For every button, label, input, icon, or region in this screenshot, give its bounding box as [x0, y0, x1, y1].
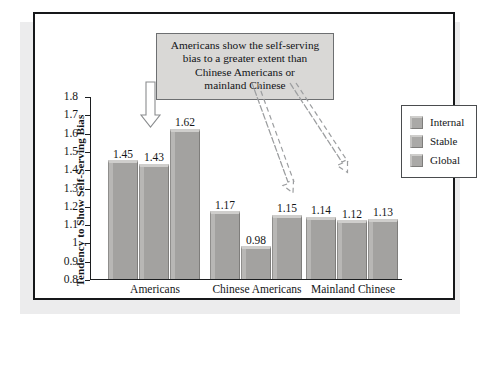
y-tick-0.8: 0.8: [85, 280, 90, 281]
x-axis-label-mainland-chinese: Mainland Chinese: [311, 284, 395, 296]
y-tick-label-1.6: 1.6: [64, 128, 78, 140]
y-tick-0.9: 0.9: [85, 262, 90, 263]
y-tick-1.3: 1.3: [85, 189, 90, 190]
bar-americans-internal[interactable]: 1.45: [108, 160, 138, 279]
bar-value-chinese-americans-global: 1.15: [277, 203, 297, 215]
y-tick-label-1.2: 1.2: [64, 201, 78, 213]
y-tick-1.1: 1.1: [85, 225, 90, 226]
y-tick-1.0: 1: [85, 243, 90, 244]
bar-group-chinese-americans: 1.17 0.98 1.15 Chinese Americans: [210, 96, 304, 279]
bar-americans-global[interactable]: 1.62: [170, 129, 200, 279]
y-tick-1.4: 1.4: [85, 170, 90, 171]
annotation-callout-box: Americans show the self-serving bias to …: [156, 33, 334, 100]
bar-value-americans-stable: 1.43: [144, 152, 164, 164]
legend-item-stable[interactable]: Stable: [410, 132, 470, 151]
legend-swatch-stable-icon: [410, 135, 423, 148]
bar-value-mainland-chinese-stable: 1.12: [342, 209, 362, 221]
annotation-line-1: Americans show the self-serving: [161, 39, 329, 52]
legend-label-stable: Stable: [430, 136, 458, 147]
x-axis-label-americans: Americans: [130, 284, 180, 296]
annotation-line-3: Chinese Americans or: [161, 66, 329, 79]
bar-group-americans: 1.45 1.43 1.62 Americans: [108, 96, 202, 279]
legend-label-internal: Internal: [430, 117, 464, 128]
y-tick-label-1.0: 1: [72, 238, 78, 250]
bar-group-mainland-chinese: 1.14 1.12 1.13 Mainland Chinese: [306, 96, 400, 279]
x-axis-label-chinese-americans: Chinese Americans: [212, 284, 301, 296]
bar-americans-stable[interactable]: 1.43: [139, 164, 169, 279]
y-tick-label-1.7: 1.7: [64, 110, 78, 122]
x-axis-line: [90, 279, 402, 280]
y-tick-1.6: 1.6: [85, 134, 90, 135]
y-tick-label-0.8: 0.8: [64, 274, 78, 286]
bar-mainland-chinese-internal[interactable]: 1.14: [306, 217, 336, 279]
legend-swatch-global-icon: [410, 154, 423, 167]
y-tick-label-0.9: 0.9: [64, 256, 78, 268]
plot-area: 1.8 1.7 1.6 1.5 1.4 1.3 1.2 1.1 1 0.9 0.: [90, 97, 402, 280]
bar-chinese-americans-internal[interactable]: 1.17: [210, 211, 240, 279]
annotation-line-4: mainland Chinese: [161, 79, 329, 92]
legend-item-global[interactable]: Global: [410, 151, 470, 170]
bar-chinese-americans-global[interactable]: 1.15: [272, 215, 302, 279]
annotation-line-2: bias to a greater extent than: [161, 52, 329, 65]
bar-value-mainland-chinese-internal: 1.14: [311, 205, 331, 217]
bar-value-americans-internal: 1.45: [113, 149, 133, 161]
y-tick-1.5: 1.5: [85, 152, 90, 153]
y-tick-1.7: 1.7: [85, 115, 90, 116]
legend-item-internal[interactable]: Internal: [410, 113, 470, 132]
figure-frame: Tendency to Show Self-Serving Bias 1.8 1…: [33, 12, 455, 300]
y-tick-1.2: 1.2: [85, 207, 90, 208]
y-tick-label-1.8: 1.8: [64, 91, 78, 103]
legend-label-global: Global: [430, 155, 460, 166]
y-tick-label-1.1: 1.1: [64, 219, 78, 231]
bar-chinese-americans-stable[interactable]: 0.98: [241, 246, 271, 279]
y-tick-label-1.4: 1.4: [64, 164, 78, 176]
chart-legend: Internal Stable Global: [401, 105, 477, 178]
bar-mainland-chinese-stable[interactable]: 1.12: [337, 220, 367, 279]
y-tick-label-1.5: 1.5: [64, 146, 78, 158]
bar-value-chinese-americans-stable: 0.98: [246, 235, 266, 247]
y-axis-line: [90, 97, 91, 280]
bar-value-mainland-chinese-global: 1.13: [373, 207, 393, 219]
y-tick-1.8: 1.8: [85, 97, 90, 98]
bar-mainland-chinese-global[interactable]: 1.13: [368, 219, 398, 279]
y-tick-label-1.3: 1.3: [64, 183, 78, 195]
bar-value-americans-global: 1.62: [175, 117, 195, 129]
bar-value-chinese-americans-internal: 1.17: [215, 200, 235, 212]
legend-swatch-internal-icon: [410, 116, 423, 129]
